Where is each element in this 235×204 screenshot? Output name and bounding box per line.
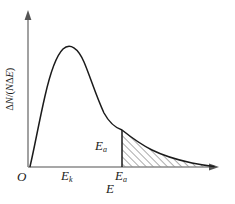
activation-energy-base: E	[115, 168, 123, 183]
y-axis-delta-2: Δ	[4, 77, 15, 84]
activation-energy-inner-subscript: a	[103, 145, 107, 154]
y-axis-n-1: N	[4, 97, 15, 104]
peak-energy-subscript: k	[69, 175, 73, 184]
y-axis-delta-1: Δ	[4, 104, 15, 111]
maxwell-boltzmann-figure: O Ek Ea Ea E ΔN/(NΔE)	[0, 0, 235, 204]
y-axis-label: ΔN/(NΔE)	[5, 59, 16, 119]
y-axis-n-2: N	[4, 84, 15, 91]
y-axis-arrowhead	[25, 10, 32, 20]
peak-energy-label: Ek	[61, 169, 73, 182]
shaded-region-beyond-activation-energy	[118, 124, 220, 170]
activation-energy-subscript: a	[123, 175, 127, 184]
peak-energy-base: E	[61, 168, 69, 183]
origin-label: O	[17, 170, 26, 183]
activation-energy-inner-label: Ea	[95, 139, 107, 152]
y-axis-slash: /(	[4, 91, 15, 97]
y-axis-close-paren: )	[4, 68, 15, 71]
activation-energy-inner-base: E	[95, 138, 103, 153]
y-axis-e: E	[4, 71, 15, 77]
y-axis	[25, 10, 32, 167]
x-axis-label: E	[106, 182, 114, 195]
activation-energy-axis-label: Ea	[115, 169, 127, 182]
